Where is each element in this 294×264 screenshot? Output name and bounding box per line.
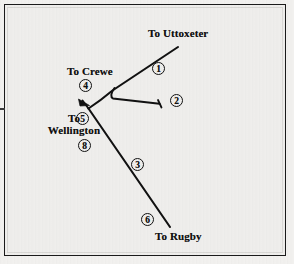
label-to-wellington-line2: Wellington <box>45 125 103 137</box>
label-to-crewe: To Crewe <box>67 66 113 78</box>
label-to-rugby: To Rugby <box>155 231 202 243</box>
label-to-wellington: To Wellington <box>45 113 103 136</box>
route-marker-1: 1 <box>152 62 165 75</box>
route-marker-5: 5 <box>76 112 89 125</box>
route-marker-8: 8 <box>78 139 91 152</box>
route-line-branch-2 <box>111 88 159 104</box>
junction-arrowhead-icon <box>79 99 90 106</box>
label-to-uttoxeter: To Uttoxeter <box>148 28 208 40</box>
label-to-wellington-line1: To <box>45 113 103 125</box>
route-marker-2: 2 <box>170 94 183 107</box>
route-marker-6: 6 <box>141 213 154 226</box>
route-marker-4: 4 <box>79 79 92 92</box>
route-marker-3: 3 <box>131 158 144 171</box>
route-line-to-uttoxeter <box>89 47 179 109</box>
figure-page: To Uttoxeter To Crewe To Wellington To R… <box>0 0 294 264</box>
